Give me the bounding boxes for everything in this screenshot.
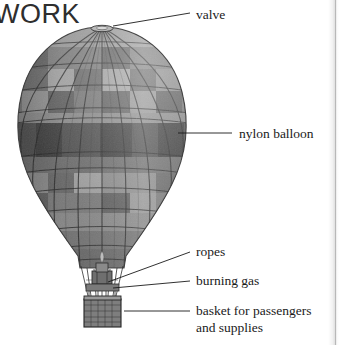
- balloon-valve: [91, 25, 113, 31]
- label-valve: valve: [196, 6, 225, 23]
- balloon-diagram-page: WORK valve nylon balloon ropes burning g…: [0, 0, 342, 345]
- label-basket: basket for passengers and supplies: [196, 302, 311, 336]
- label-basket-line2: and supplies: [196, 320, 263, 335]
- balloon-envelope: [0, 0, 342, 345]
- label-basket-line1: basket for passengers: [196, 303, 311, 318]
- label-ropes: ropes: [196, 243, 225, 260]
- leader-line-gas: [113, 281, 190, 288]
- hot-air-balloon-illustration: [0, 0, 342, 345]
- page-heading: WORK: [0, 0, 80, 30]
- page-edge-line: [335, 0, 336, 345]
- balloon-basket: [84, 284, 121, 327]
- label-nylon-balloon: nylon balloon: [239, 125, 314, 142]
- label-burning-gas: burning gas: [196, 272, 259, 289]
- leader-line-valve: [113, 13, 190, 26]
